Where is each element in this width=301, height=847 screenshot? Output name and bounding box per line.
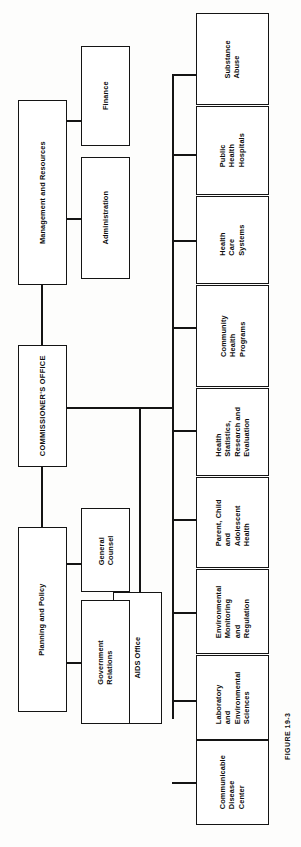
connector-bus-to-communicable-disease-center <box>172 782 196 784</box>
node-parent-child-and-adolescent-health[interactable]: Parent, Child and Adolescent Health <box>196 477 269 568</box>
node-label: Substance Abuse <box>223 40 242 78</box>
connector-bus-to-health-care-systems <box>172 240 196 242</box>
node-label: COMMISSIONER'S OFFICE <box>38 356 47 457</box>
node-management-and-resources[interactable]: Management and Resources <box>18 100 67 285</box>
node-label: Environmental Monitoring and Regulation <box>214 585 252 638</box>
node-label: General Counsel <box>96 535 115 565</box>
organizational-chart: COMMISSIONER'S OFFICE Management and Res… <box>0 0 301 847</box>
node-label: Finance <box>101 82 110 111</box>
node-laboratory-and-environmental-sciences[interactable]: Laboratory and Environmental Sciences <box>196 655 269 740</box>
connector-bus-to-health-statistics <box>172 430 196 432</box>
operating-units-bus <box>172 74 174 719</box>
node-label: Parent, Child and Adolescent Health <box>214 499 252 546</box>
figure-caption: FIGURE 19-3 <box>284 713 291 760</box>
node-finance[interactable]: Finance <box>81 46 130 146</box>
node-environmental-monitoring-and-regulation[interactable]: Environmental Monitoring and Regulation <box>196 569 269 654</box>
connector-bus-to-environmental-monitoring <box>172 612 196 614</box>
connector-planning-to-general-counsel <box>67 563 81 565</box>
connector-commissioner-to-planning <box>41 467 43 527</box>
node-commissioners-office[interactable]: COMMISSIONER'S OFFICE <box>18 345 67 467</box>
node-community-health-programs[interactable]: Community Health Programs <box>196 285 269 387</box>
node-label: Communicable Disease Center <box>218 755 246 809</box>
node-administration[interactable]: Administration <box>81 157 130 279</box>
node-health-statistics-research-and-evaluation[interactable]: Health Statistics, Research and Evaluati… <box>196 388 269 476</box>
node-government-relations[interactable]: Government Relations <box>81 600 130 724</box>
connector-bus-to-public-health-hospitals <box>172 154 196 156</box>
node-label: Health Care Systems <box>218 224 246 255</box>
node-label: Laboratory and Environmental Sciences <box>214 671 252 724</box>
node-substance-abuse[interactable]: Substance Abuse <box>196 13 269 105</box>
connector-management-to-administration <box>67 218 81 220</box>
connector-commissioner-trunk <box>67 407 173 409</box>
node-planning-and-policy[interactable]: Planning and Policy <box>18 527 67 712</box>
node-label: Government Relations <box>96 640 115 685</box>
connector-bus-to-community-health-programs <box>172 327 196 329</box>
node-label: Administration <box>101 191 110 245</box>
connector-bus-to-parent-child-adolescent-health <box>172 519 196 521</box>
connector-commissioner-to-management <box>41 285 43 345</box>
node-label: Community Health Programs <box>218 315 246 357</box>
connector-management-to-finance <box>67 120 81 122</box>
node-label: Public Health Hospitals <box>218 133 246 167</box>
node-general-counsel[interactable]: General Counsel <box>81 508 130 592</box>
node-health-care-systems[interactable]: Health Care Systems <box>196 196 269 284</box>
node-label: Health Statistics, Research and Evaluati… <box>214 407 252 457</box>
connector-bus-to-substance-abuse <box>172 74 196 76</box>
node-communicable-disease-center[interactable]: Communicable Disease Center <box>196 740 269 825</box>
node-public-health-hospitals[interactable]: Public Health Hospitals <box>196 106 269 195</box>
connector-bus-to-laboratory <box>172 700 196 702</box>
node-label: Planning and Policy <box>38 583 47 655</box>
node-label: AIDS Office <box>133 637 142 679</box>
node-label: Management and Resources <box>38 141 47 244</box>
connector-planning-to-government-relations <box>67 662 81 664</box>
connector-trunk-to-aids-office <box>139 407 141 592</box>
